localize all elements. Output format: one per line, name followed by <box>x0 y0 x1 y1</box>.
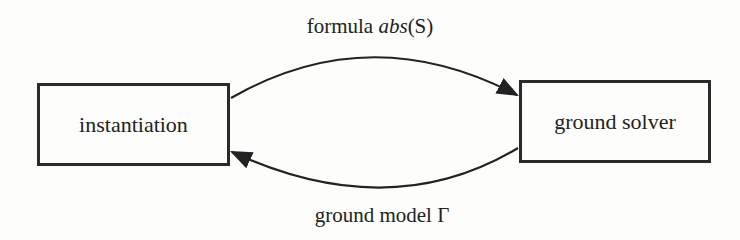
bottom-edge-label: ground model Γ <box>315 203 450 228</box>
top-edge-math: abs <box>378 14 407 38</box>
top-edge-prefix: formula <box>307 14 379 38</box>
instantiation-label: instantiation <box>79 112 188 138</box>
top-edge-arg: (S) <box>408 14 434 38</box>
top-edge-label: formula abs(S) <box>307 14 434 39</box>
bottom-edge-prefix: ground model <box>315 203 437 227</box>
instantiation-node: instantiation <box>37 83 230 166</box>
bottom-edge-symbol: Γ <box>437 203 449 227</box>
arrow-solver-to-instantiation <box>232 148 518 188</box>
ground-solver-label: ground solver <box>554 109 676 135</box>
arrow-instantiation-to-solver <box>231 57 517 98</box>
ground-solver-node: ground solver <box>519 80 711 163</box>
